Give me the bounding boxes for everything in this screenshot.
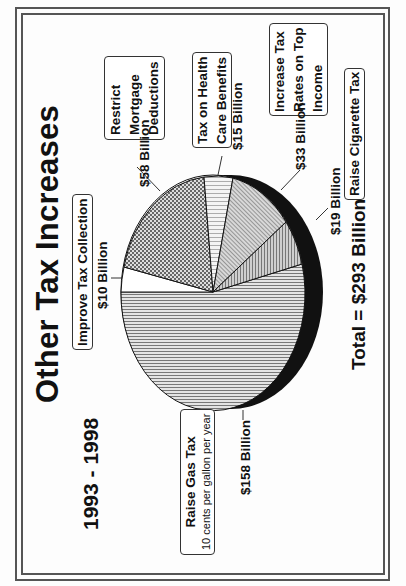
label-line: Increase Tax bbox=[270, 27, 289, 112]
value-restrict-mortgage-deductions: $58 Billion bbox=[135, 119, 154, 187]
value-raise-gas-tax: $158 Billion bbox=[236, 420, 255, 495]
label-line: Rates on Top bbox=[289, 27, 308, 112]
label-line: Income bbox=[308, 27, 327, 112]
chart-years: 1993 - 1998 bbox=[79, 418, 103, 530]
value-tax-health-care-benefits: $15 Billion bbox=[228, 82, 247, 150]
chart-slide: Other Tax Increases 1993 - 1998 Improve … bbox=[0, 0, 406, 586]
value-improve-tax-collection: $10 Billion bbox=[93, 241, 112, 309]
total-label: Total = $293 Billion bbox=[348, 199, 370, 370]
value-raise-cigarette-tax: $19 Billion bbox=[326, 167, 345, 235]
value-increase-top-income-rates: $33 Billion bbox=[291, 102, 310, 170]
chart-title: Other Tax Increases bbox=[30, 105, 66, 403]
label-line: Tax on Health bbox=[193, 56, 212, 144]
gas-tax-note: 10 cents per gallon per year bbox=[200, 414, 213, 550]
label-line: Restrict bbox=[106, 61, 125, 135]
label-raise-gas-tax: Raise Gas Tax 10 cents per gallon per ye… bbox=[180, 409, 215, 555]
label-tax-health-care-benefits: Tax on Health Care Benefits bbox=[192, 52, 232, 148]
label-line: Raise Gas Tax bbox=[182, 414, 200, 550]
label-improve-tax-collection: Improve Tax Collection bbox=[72, 194, 93, 350]
label-raise-cigarette-tax: Raise Cigarette Tax bbox=[344, 68, 365, 200]
